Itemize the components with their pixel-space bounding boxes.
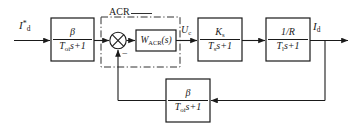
armature-numerator: 1/R xyxy=(268,27,308,40)
diagram-lines-layer xyxy=(0,0,355,135)
current-feedback-denominator: Tois+1 xyxy=(168,101,208,113)
input-reference-label: I*d xyxy=(19,20,30,33)
summing-junction-minus-sign: − xyxy=(122,49,128,59)
input-filter-numerator: β xyxy=(53,27,92,40)
converter-denominator: Tss+1 xyxy=(200,40,240,52)
block-diagram-canvas: I*d ACR − β Tois+1 WACR(s) Uc Ks Tss+1 1… xyxy=(0,0,355,135)
input-filter-denominator: Tois+1 xyxy=(53,40,92,52)
output-current-label: Id xyxy=(313,21,320,33)
control-voltage-label: Uc xyxy=(181,25,191,36)
armature-circuit-block-expression: 1/R Tls+1 xyxy=(268,27,308,51)
acr-regulator-block-expression: WACR(s) xyxy=(136,30,176,51)
converter-block-expression: Ks Tss+1 xyxy=(200,27,240,52)
converter-numerator: Ks xyxy=(200,27,240,40)
input-filter-block-expression: β Tois+1 xyxy=(53,27,92,51)
current-feedback-numerator: β xyxy=(168,88,208,101)
armature-denominator: Tls+1 xyxy=(268,40,308,52)
acr-group-label: ACR xyxy=(109,7,130,17)
current-feedback-block-expression: β Tois+1 xyxy=(168,88,208,112)
